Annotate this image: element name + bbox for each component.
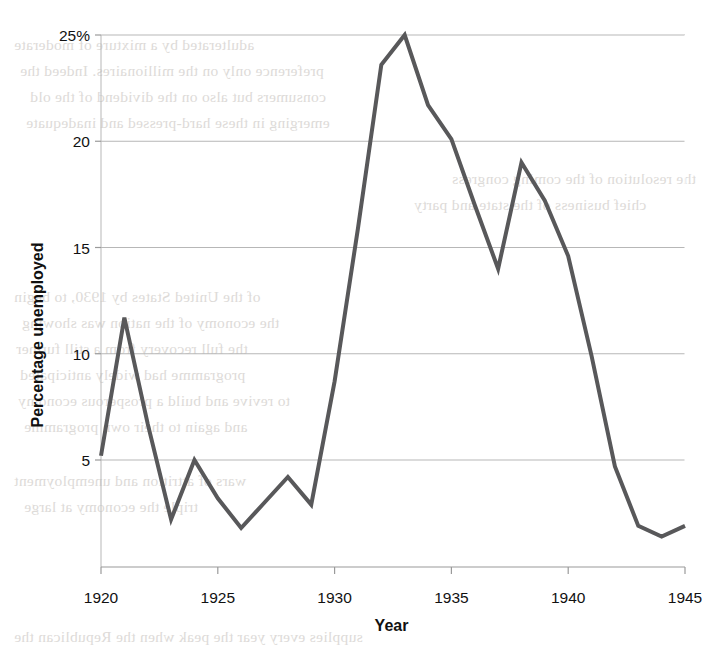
y-tick-label-text: 5 — [81, 452, 90, 470]
y-tick-label-text: 10 — [73, 346, 90, 364]
y-tick-label-text: 25% — [59, 27, 90, 45]
x-tick-label-text: 1930 — [317, 589, 351, 607]
x-tick-label-text: 1940 — [551, 589, 585, 607]
y-tick-label-text: 15 — [73, 240, 90, 258]
x-tick-label-text: 1925 — [201, 589, 235, 607]
unemployment-line-chart: 510152025% 192019251930193519401945 Year… — [0, 0, 723, 657]
x-axis-title: Year — [0, 617, 723, 635]
x-tick-label-text: 1935 — [434, 589, 468, 607]
x-tick-label-text: 1945 — [668, 589, 702, 607]
y-axis-title: Percentage unemployed — [29, 125, 47, 545]
chart-plot-area — [0, 0, 723, 657]
x-axis-title-text: Year — [375, 617, 409, 635]
y-tick-label-text: 20 — [73, 133, 90, 151]
x-tick-label-text: 1920 — [84, 589, 118, 607]
data-series-line — [101, 35, 685, 537]
